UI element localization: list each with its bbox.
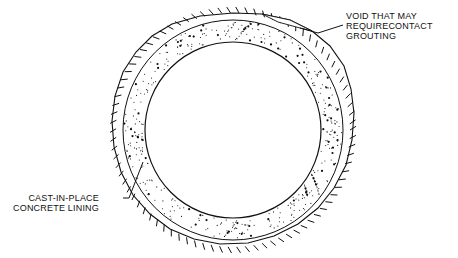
void-label: VOID THAT MAY REQUIRECONTACT GROUTING xyxy=(346,11,433,41)
void-label-line-2: REQUIRECONTACT xyxy=(346,21,433,31)
lining-label-line-1: CAST-IN-PLACE xyxy=(13,193,99,203)
lining-label: CAST-IN-PLACE CONCRETE LINING xyxy=(13,193,99,213)
void-region xyxy=(262,14,312,31)
lining-label-line-2: CONCRETE LINING xyxy=(13,203,99,213)
void-label-line-1: VOID THAT MAY xyxy=(346,11,433,21)
void-label-line-3: GROUTING xyxy=(346,31,433,41)
lining-inner-face xyxy=(145,42,321,218)
